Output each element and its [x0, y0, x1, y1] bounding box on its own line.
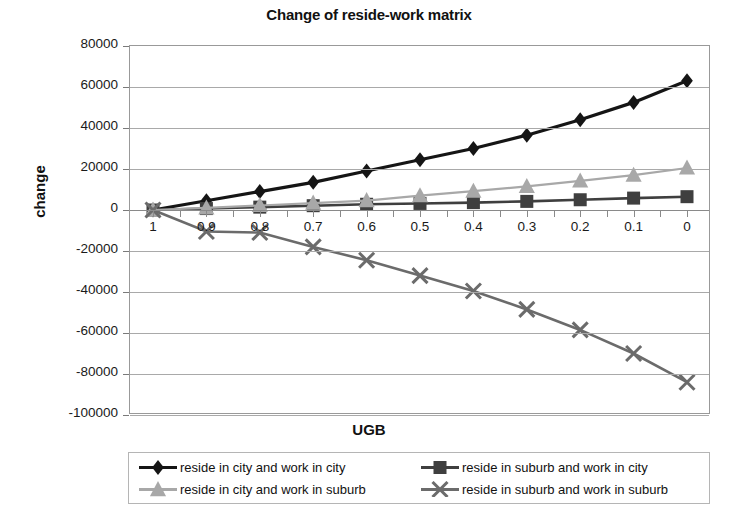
data-point-marker: [467, 196, 480, 209]
data-point-marker: [519, 302, 534, 317]
x-axis-tickmark: [367, 210, 368, 217]
y-axis-tickmark: [123, 128, 129, 129]
x-axis-tickmark: [260, 210, 261, 217]
y-axis-tickmark: [123, 415, 129, 416]
x-axis-title: UGB: [0, 421, 738, 438]
data-point-marker: [468, 141, 480, 156]
y-axis-tick-label: 0: [26, 200, 118, 215]
y-axis-tickmark: [123, 251, 129, 252]
gridline: [130, 333, 709, 334]
y-axis-tick-label: 80000: [26, 36, 118, 51]
legend-item[interactable]: reside in suburb and work in suburb: [421, 481, 703, 497]
x-axis-tickmark: [420, 210, 421, 217]
x-axis-minor-tickmark: [500, 210, 501, 217]
data-point-marker: [574, 112, 586, 127]
legend-label: reside in city and work in city: [180, 460, 345, 475]
legend-item[interactable]: reside in suburb and work in city: [421, 459, 703, 475]
y-axis-tickmark: [123, 210, 129, 211]
y-axis-tickmark: [123, 374, 129, 375]
legend-label: reside in suburb and work in city: [462, 460, 648, 475]
x-axis-tick-label: 0.3: [507, 219, 547, 234]
data-point-marker: [254, 184, 266, 199]
x-axis-minor-tickmark: [447, 210, 448, 217]
data-point-marker: [307, 175, 319, 190]
chart-container: Change of reside-work matrix change 8000…: [0, 0, 738, 528]
gridline: [130, 374, 709, 375]
y-axis-tick-label: -20000: [26, 241, 118, 256]
gridline: [130, 128, 709, 129]
x-axis-tick-label: 0.4: [453, 219, 493, 234]
x-axis-tick-label: 0.5: [400, 219, 440, 234]
x-axis-tick-label: 0.1: [614, 219, 654, 234]
x-axis-tick-label: 0.9: [186, 219, 226, 234]
data-point-marker: [573, 322, 588, 337]
y-axis-tick-label: 20000: [26, 159, 118, 174]
legend-label: reside in city and work in suburb: [180, 482, 366, 497]
legend-item[interactable]: reside in city and work in city: [139, 459, 421, 475]
legend-marker-triangle-icon: [139, 481, 177, 497]
x-axis-tick-label: 0.6: [347, 219, 387, 234]
x-axis-minor-tickmark: [554, 210, 555, 217]
gridline: [130, 169, 709, 170]
y-axis-tickmark: [123, 87, 129, 88]
y-axis-tick-label: 40000: [26, 118, 118, 133]
x-axis-minor-tickmark: [607, 210, 608, 217]
gridline: [130, 87, 709, 88]
x-axis-tick-label: 0.8: [240, 219, 280, 234]
x-axis-tickmark: [687, 210, 688, 217]
data-point-marker: [520, 195, 533, 208]
data-point-marker: [680, 375, 695, 390]
legend-label: reside in suburb and work in suburb: [462, 482, 668, 497]
chart-title: Change of reside-work matrix: [0, 6, 738, 23]
data-point-marker: [628, 95, 640, 110]
y-axis-tick-label: -40000: [26, 282, 118, 297]
series-line: [153, 210, 687, 382]
x-axis-minor-tickmark: [393, 210, 394, 217]
x-axis-tick-label: 0.2: [560, 219, 600, 234]
y-axis-tick-label: -60000: [26, 323, 118, 338]
x-axis-minor-tickmark: [287, 210, 288, 217]
x-axis-tickmark: [527, 210, 528, 217]
x-axis-tick-label: 0: [667, 219, 707, 234]
x-axis-tickmark: [580, 210, 581, 217]
legend-marker-cross-icon: [421, 481, 459, 497]
data-point-marker: [413, 268, 428, 283]
x-axis-minor-tickmark: [660, 210, 661, 217]
legend-marker-diamond-icon: [139, 459, 177, 475]
data-point-marker: [627, 192, 640, 205]
data-point-marker: [361, 164, 373, 179]
gridline: [130, 292, 709, 293]
y-axis-tickmark: [123, 169, 129, 170]
x-axis-tickmark: [153, 210, 154, 217]
plot-area: 10.90.80.70.60.50.40.30.20.10: [129, 45, 710, 414]
x-axis-tick-label: 0.7: [293, 219, 333, 234]
data-point-marker: [414, 152, 426, 167]
data-point-marker: [681, 190, 694, 203]
y-axis-tick-label: -100000: [26, 405, 118, 420]
gridline: [130, 251, 709, 252]
gridline: [130, 415, 709, 416]
data-point-marker: [679, 159, 695, 174]
y-axis-tickmark: [123, 333, 129, 334]
x-axis-tickmark: [206, 210, 207, 217]
x-axis-tick-label: 1: [133, 219, 173, 234]
legend-marker-square-icon: [421, 459, 459, 475]
y-axis-tickmark: [123, 292, 129, 293]
legend-item[interactable]: reside in city and work in suburb: [139, 481, 421, 497]
y-axis-tick-label: -80000: [26, 364, 118, 379]
data-point-marker: [521, 128, 533, 143]
x-axis-minor-tickmark: [233, 210, 234, 217]
x-axis-tickmark: [313, 210, 314, 217]
y-axis-tick-label: 60000: [26, 77, 118, 92]
data-point-marker: [574, 193, 587, 206]
x-axis-minor-tickmark: [180, 210, 181, 217]
x-axis-tickmark: [473, 210, 474, 217]
x-axis-tickmark: [634, 210, 635, 217]
x-axis-minor-tickmark: [340, 210, 341, 217]
data-point-marker: [626, 346, 641, 361]
legend: reside in city and work in cityreside in…: [128, 452, 710, 504]
y-axis-tickmark: [123, 46, 129, 47]
